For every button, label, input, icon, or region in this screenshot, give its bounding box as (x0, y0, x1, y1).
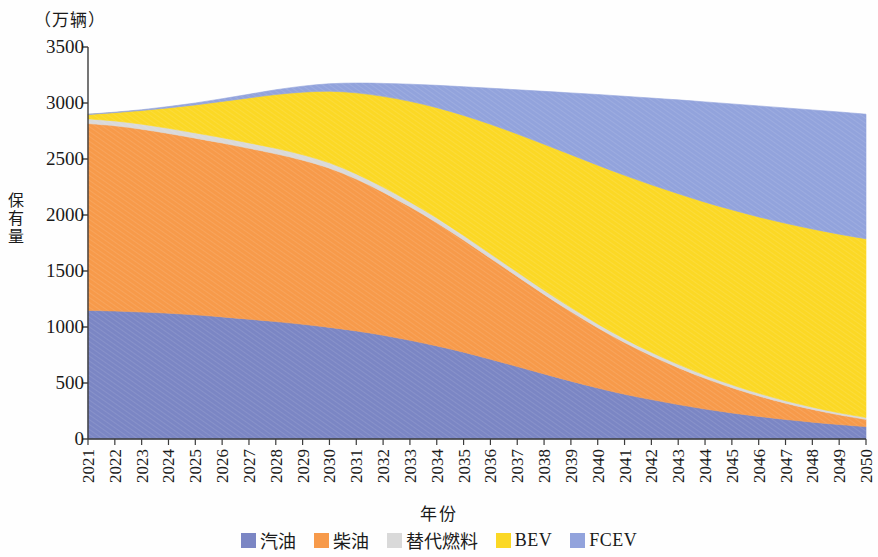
legend-swatch-icon (387, 533, 402, 548)
x-tick-label: 2046 (750, 449, 770, 483)
x-tick-label: 2047 (777, 449, 797, 483)
x-tick-label: 2031 (347, 449, 367, 483)
legend-label: 柴油 (333, 527, 369, 553)
x-tick-label: 2032 (374, 449, 394, 483)
legend-label: BEV (515, 530, 553, 551)
x-tick-label: 2021 (79, 449, 99, 483)
legend-swatch-icon (241, 533, 256, 548)
legend-item[interactable]: 汽油 (241, 527, 296, 553)
x-tick-label: 2036 (481, 449, 501, 483)
x-tick-label: 2045 (723, 449, 743, 483)
x-tick-label: 2027 (240, 449, 260, 483)
legend-swatch-icon (496, 533, 511, 548)
x-tick-label: 2038 (535, 449, 555, 483)
x-tick-label: 2034 (428, 449, 448, 483)
legend-label: FCEV (589, 530, 637, 551)
x-tick-label: 2043 (669, 449, 689, 483)
legend-swatch-icon (570, 533, 585, 548)
chart-page: （万辆） 保有量 3500300025002000150010005000 20… (0, 0, 878, 557)
legend-item[interactable]: 柴油 (314, 527, 369, 553)
x-tick-label: 2035 (455, 449, 475, 483)
x-tick-label: 2022 (106, 449, 126, 483)
x-axis-tick-labels: 2021202220232024202520262027202820292030… (0, 0, 878, 557)
x-tick-label: 2023 (133, 449, 153, 483)
x-tick-label: 2039 (562, 449, 582, 483)
x-tick-label: 2048 (803, 449, 823, 483)
x-tick-label: 2049 (830, 449, 850, 483)
legend-item[interactable]: BEV (496, 530, 553, 551)
x-tick-label: 2029 (294, 449, 314, 483)
x-tick-label: 2025 (186, 449, 206, 483)
x-tick-label: 2024 (159, 449, 179, 483)
chart-legend: 汽油柴油替代燃料BEVFCEV (0, 527, 878, 553)
legend-item[interactable]: 替代燃料 (387, 527, 478, 553)
x-tick-label: 2037 (508, 449, 528, 483)
x-tick-label: 2044 (696, 449, 716, 483)
x-tick-label: 2050 (857, 449, 877, 483)
x-tick-label: 2026 (213, 449, 233, 483)
legend-label: 替代燃料 (406, 527, 478, 553)
x-axis-title: 年份 (0, 500, 878, 525)
legend-label: 汽油 (260, 527, 296, 553)
x-tick-label: 2028 (267, 449, 287, 483)
x-tick-label: 2042 (642, 449, 662, 483)
legend-swatch-icon (314, 533, 329, 548)
x-tick-label: 2033 (401, 449, 421, 483)
x-tick-label: 2040 (589, 449, 609, 483)
legend-item[interactable]: FCEV (570, 530, 637, 551)
x-tick-label: 2041 (616, 449, 636, 483)
x-tick-label: 2030 (320, 449, 340, 483)
